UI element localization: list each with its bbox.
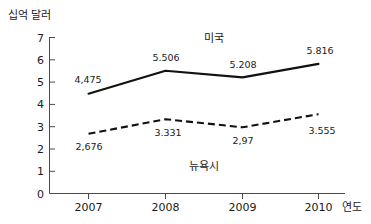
x-tick-label-2008: 2008: [152, 201, 180, 214]
y-tick-label-0: 0: [37, 188, 44, 201]
value-label-nyc-2009: 2,97: [232, 135, 253, 146]
value-label-usa-2007: 4,475: [74, 74, 101, 85]
y-axis-title: 십억 달러: [8, 9, 52, 22]
x-axis-title: 연도: [342, 201, 362, 214]
y-tick-label-6: 6: [37, 54, 44, 67]
series-line-usa: [89, 64, 319, 94]
series-label-nyc: 뉴욕시: [189, 160, 219, 173]
x-axis-ticks: [89, 194, 319, 200]
line-chart: 십억 달러 7 6 5 4 3 2 1 0: [0, 0, 371, 224]
value-label-nyc-2007: 2,676: [75, 141, 102, 152]
value-label-usa-2009: 5.208: [229, 59, 256, 70]
x-tick-label-2009: 2009: [229, 201, 257, 214]
y-tick-label-4: 4: [37, 98, 44, 111]
y-tick-label-1: 1: [37, 165, 44, 178]
series-line-nyc: [89, 114, 319, 134]
y-tick-label-7: 7: [37, 32, 44, 45]
x-tick-label-2010: 2010: [305, 201, 333, 214]
value-label-nyc-2010: 3.555: [308, 125, 335, 136]
x-tick-label-2007: 2007: [75, 201, 103, 214]
value-label-usa-2008: 5.506: [152, 52, 179, 63]
y-axis-ticks: [50, 38, 56, 194]
chart-canvas: 십억 달러 7 6 5 4 3 2 1 0: [0, 0, 371, 224]
y-tick-label-3: 3: [37, 121, 44, 134]
value-label-nyc-2008: 3.331: [154, 127, 181, 138]
y-tick-label-5: 5: [37, 76, 44, 89]
series-label-usa: 미국: [204, 32, 224, 45]
y-tick-label-2: 2: [37, 143, 44, 156]
value-label-usa-2010: 5.816: [306, 45, 333, 56]
